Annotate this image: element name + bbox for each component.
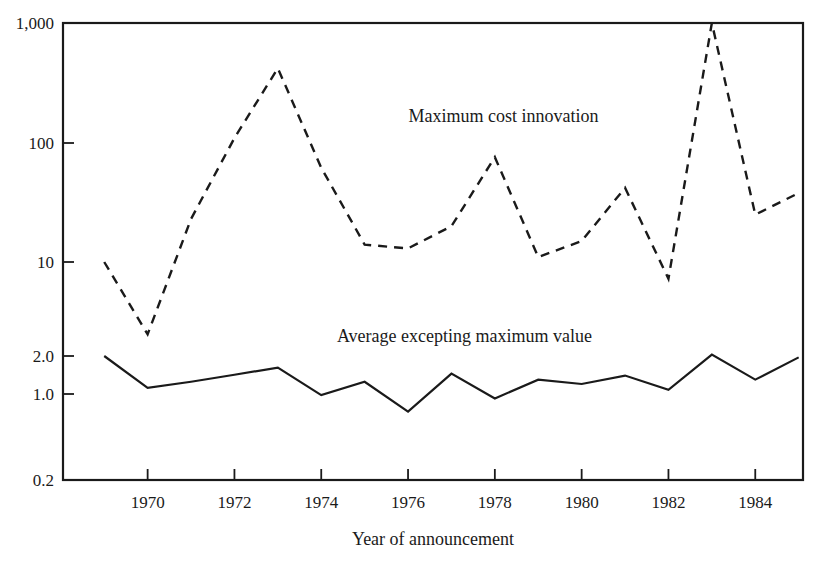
x-tick-label-1982: 1982 <box>651 493 685 512</box>
line-chart-log-scale: 0.21.02.0101001,000 19701972197419761978… <box>0 0 819 562</box>
series-average-excepting-maximum-label: Average excepting maximum value <box>337 326 592 346</box>
chart-figure: 0.21.02.0101001,000 19701972197419761978… <box>0 0 819 562</box>
series-maximum-cost-innovation-label: Maximum cost innovation <box>409 106 599 126</box>
x-tick-label-1976: 1976 <box>391 493 425 512</box>
y-tick-label-1.0: 1.0 <box>33 385 54 404</box>
x-tick-label-1978: 1978 <box>478 493 512 512</box>
chart-background <box>0 0 819 562</box>
x-tick-label-1970: 1970 <box>131 493 165 512</box>
y-tick-label-1,000: 1,000 <box>16 14 54 33</box>
y-tick-label-2.0: 2.0 <box>33 347 54 366</box>
y-tick-label-100: 100 <box>29 134 55 153</box>
y-tick-label-10: 10 <box>37 253 54 272</box>
x-axis-title: Year of announcement <box>352 529 514 549</box>
x-tick-label-1980: 1980 <box>565 493 599 512</box>
x-tick-label-1972: 1972 <box>217 493 251 512</box>
x-tick-label-1974: 1974 <box>304 493 339 512</box>
y-tick-label-0.2: 0.2 <box>33 471 54 490</box>
x-tick-label-1984: 1984 <box>738 493 773 512</box>
